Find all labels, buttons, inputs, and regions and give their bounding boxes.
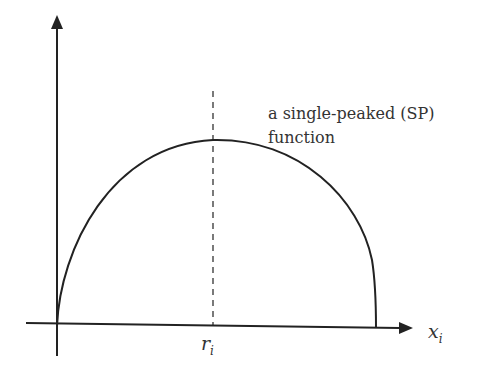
single-peaked-curve (57, 140, 376, 328)
diagram-graphics (0, 0, 493, 373)
x-axis-label-main: x (428, 320, 439, 342)
peak-label: ri (201, 332, 214, 358)
peak-label-subscript: i (210, 344, 214, 358)
sp-function-annotation: a single-peaked (SP) function (268, 102, 434, 150)
annotation-line-2: function (268, 126, 434, 150)
annotation-line-1: a single-peaked (SP) (268, 102, 434, 126)
y-axis-arrow-icon (51, 15, 63, 29)
x-axis-label: xi (428, 320, 443, 346)
sp-function-diagram: a single-peaked (SP) function ri xi (0, 0, 493, 373)
x-axis-arrow-icon (399, 322, 413, 334)
peak-label-main: r (201, 332, 210, 354)
x-axis-label-subscript: i (439, 332, 443, 346)
